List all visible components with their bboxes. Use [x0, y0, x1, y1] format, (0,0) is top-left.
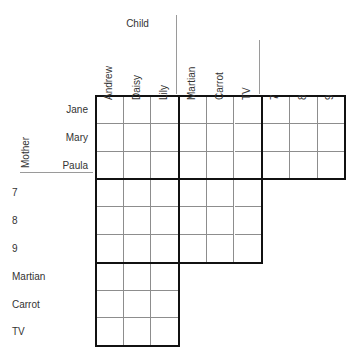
grid-cell[interactable] — [235, 96, 263, 124]
grid-cell[interactable] — [96, 152, 124, 180]
grid-cell[interactable] — [207, 124, 235, 152]
grid-cell[interactable] — [96, 291, 124, 319]
grid-cell[interactable] — [124, 291, 152, 319]
grid-cell[interactable] — [235, 235, 263, 263]
grid-cell[interactable] — [318, 96, 346, 124]
column-label: 7 — [270, 94, 280, 100]
grid-cell[interactable] — [207, 96, 235, 124]
grid-cell[interactable] — [235, 124, 263, 152]
column-label: Lily — [159, 85, 169, 100]
grid-cell[interactable] — [151, 235, 179, 263]
grid-cell[interactable] — [151, 207, 179, 235]
grid-cell[interactable] — [290, 124, 318, 152]
grid-cell[interactable] — [179, 152, 207, 180]
grid-cell[interactable] — [96, 235, 124, 263]
row-label: Martian — [12, 272, 88, 282]
row-group-separator — [20, 172, 93, 173]
grid-cell[interactable] — [262, 124, 290, 152]
grid-cell[interactable] — [124, 96, 152, 124]
grid-cell[interactable] — [124, 179, 152, 207]
grid-cell[interactable] — [151, 263, 179, 291]
grid-cell[interactable] — [179, 235, 207, 263]
grid-cell[interactable] — [96, 207, 124, 235]
column-group-separator — [176, 15, 177, 94]
grid-cell[interactable] — [151, 96, 179, 124]
column-label: Martian — [187, 67, 197, 100]
row-label: 7 — [12, 188, 88, 198]
grid-cell[interactable] — [207, 235, 235, 263]
grid-cell[interactable] — [179, 96, 207, 124]
row-label: Mary — [30, 133, 88, 143]
grid-cell[interactable] — [262, 152, 290, 180]
column-group-title: Child — [96, 18, 179, 30]
grid-cell[interactable] — [290, 96, 318, 124]
column-label: Daisy — [132, 75, 142, 100]
grid-cell[interactable] — [96, 263, 124, 291]
row-label: TV — [12, 327, 88, 337]
grid-cell[interactable] — [207, 152, 235, 180]
grid-cell[interactable] — [290, 152, 318, 180]
logic-puzzle-grid: AndrewDaisyLilyChildMartianCarrotTV789Ja… — [0, 0, 352, 354]
grid-cell[interactable] — [235, 152, 263, 180]
grid-cell[interactable] — [151, 291, 179, 319]
row-label: 8 — [12, 216, 88, 226]
grid-cell[interactable] — [124, 124, 152, 152]
row-group-title: Mother — [21, 137, 31, 168]
grid-cell[interactable] — [151, 179, 179, 207]
column-label: Carrot — [215, 72, 225, 100]
row-label: Jane — [30, 105, 88, 115]
grid-cell[interactable] — [96, 318, 124, 346]
grid-cell[interactable] — [151, 124, 179, 152]
column-label: TV — [242, 87, 252, 100]
grid-cell[interactable] — [124, 318, 152, 346]
grid-cell[interactable] — [235, 207, 263, 235]
grid-cell[interactable] — [96, 124, 124, 152]
grid-cell[interactable] — [124, 207, 152, 235]
grid-cell[interactable] — [179, 179, 207, 207]
grid-cell[interactable] — [318, 152, 346, 180]
grid-cell[interactable] — [124, 235, 152, 263]
grid-cell[interactable] — [207, 179, 235, 207]
column-label: Andrew — [104, 66, 114, 100]
grid-cell[interactable] — [124, 152, 152, 180]
row-label: Carrot — [12, 300, 88, 310]
grid-cell[interactable] — [96, 96, 124, 124]
grid-cell[interactable] — [179, 124, 207, 152]
grid-cell[interactable] — [151, 318, 179, 346]
column-label: 8 — [298, 94, 308, 100]
grid-cell[interactable] — [151, 152, 179, 180]
row-label: Paula — [30, 161, 88, 171]
grid-cell[interactable] — [318, 124, 346, 152]
column-group-separator — [259, 40, 260, 94]
grid-cell[interactable] — [124, 263, 152, 291]
grid-cell[interactable] — [235, 179, 263, 207]
row-label: 9 — [12, 244, 88, 254]
grid-cell[interactable] — [179, 207, 207, 235]
grid-cell[interactable] — [207, 207, 235, 235]
grid-cell[interactable] — [96, 179, 124, 207]
grid-cell[interactable] — [262, 96, 290, 124]
column-label: 9 — [325, 94, 335, 100]
